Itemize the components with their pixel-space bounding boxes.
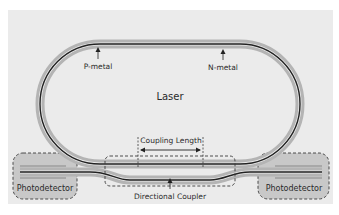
laser-coupler-schematic: P-metal N-metal Laser Coupling Length Di… (0, 0, 339, 215)
photodetector-right-label: Photodetector (266, 184, 323, 193)
coupling-length-label: Coupling Length (140, 136, 202, 145)
n-metal-label: N-metal (208, 63, 238, 72)
p-metal-label: P-metal (84, 62, 113, 71)
directional-coupler-label: Directional Coupler (134, 192, 207, 201)
photodetector-left-label: Photodetector (17, 184, 74, 193)
laser-label: Laser (156, 91, 184, 102)
